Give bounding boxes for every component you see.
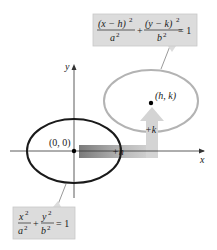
- eq1-plus: +: [33, 218, 39, 229]
- y-axis-arrowhead-icon: [72, 64, 77, 70]
- eq2-term2-denominator: b: [157, 32, 162, 43]
- svg-text:2: 2: [176, 16, 180, 24]
- origin-point: [72, 149, 76, 153]
- translated-equation-box: (x − h) 2 a 2 + (y − k) 2 b 2 = 1: [93, 14, 197, 46]
- eq1-equals: = 1: [56, 218, 69, 229]
- center-hk-label: (h, k): [155, 90, 177, 102]
- center-hk-point: [149, 101, 153, 105]
- eq2-equals: = 1: [178, 25, 191, 36]
- y-axis-label: y: [64, 61, 70, 72]
- shift-k-label: +k: [145, 124, 157, 135]
- svg-text:2: 2: [25, 209, 29, 217]
- ellipse-translation-diagram: y x (0, 0) (h, k) +h +k (x − h) 2 a 2 + …: [0, 0, 217, 250]
- shift-h-label: +h: [112, 146, 124, 157]
- eq2-term1-denominator: a: [110, 32, 115, 43]
- eq1-term2-denominator: b: [41, 225, 46, 236]
- original-equation-box: x 2 a 2 + y 2 b 2 = 1: [13, 207, 75, 239]
- svg-text:2: 2: [47, 224, 51, 232]
- svg-text:2: 2: [48, 209, 52, 217]
- eq2-term1-exp: 2: [129, 16, 133, 24]
- eq2-plus: +: [137, 25, 143, 36]
- origin-label: (0, 0): [49, 137, 71, 149]
- svg-text:2: 2: [163, 31, 167, 39]
- x-axis-arrowhead-icon: [199, 149, 205, 154]
- eq1-term2-numerator: y: [41, 211, 47, 222]
- x-axis-label: x: [199, 154, 205, 165]
- top-callout-pointer: [161, 46, 170, 69]
- eq1-term1-numerator: x: [18, 211, 24, 222]
- eq1-term1-denominator: a: [18, 225, 23, 236]
- eq2-term1-numerator: (x − h): [98, 18, 127, 30]
- eq2-term2-numerator: (y − k): [145, 18, 173, 30]
- svg-text:2: 2: [116, 31, 120, 39]
- svg-text:2: 2: [24, 224, 28, 232]
